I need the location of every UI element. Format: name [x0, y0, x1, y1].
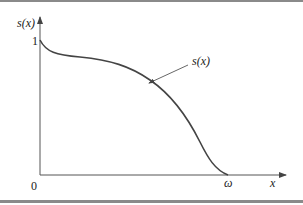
x-axis-label: x [270, 177, 275, 189]
curve-annotation-label: s(x) [192, 55, 210, 67]
annotation-arrow [149, 65, 188, 83]
x-tick-omega: ω [224, 177, 232, 189]
bottom-border-rule [0, 200, 303, 203]
origin-label: 0 [31, 180, 37, 192]
chart-canvas [0, 0, 303, 205]
y-axis-label: s(x) [17, 17, 35, 29]
y-tick-1: 1 [32, 35, 38, 47]
